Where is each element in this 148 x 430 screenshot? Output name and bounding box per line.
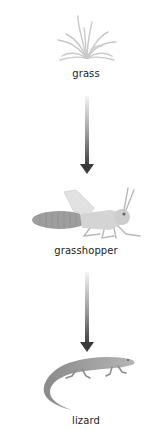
arrow-grass-to-grasshopper bbox=[85, 96, 89, 174]
lizard-icon bbox=[36, 354, 140, 414]
lizard-node bbox=[36, 354, 140, 414]
grasshopper-icon bbox=[30, 184, 144, 242]
grass-label: grass bbox=[12, 68, 148, 79]
grasshopper-label: grasshopper bbox=[12, 245, 148, 256]
arrow-head-icon bbox=[80, 164, 94, 174]
grass-node bbox=[56, 12, 118, 62]
arrow-shaft bbox=[85, 272, 89, 344]
arrow-shaft bbox=[85, 96, 89, 166]
lizard-label: lizard bbox=[12, 415, 148, 426]
arrow-grasshopper-to-lizard bbox=[85, 272, 89, 352]
grass-icon bbox=[56, 12, 118, 62]
grasshopper-node bbox=[30, 184, 144, 242]
arrow-head-icon bbox=[80, 342, 94, 352]
